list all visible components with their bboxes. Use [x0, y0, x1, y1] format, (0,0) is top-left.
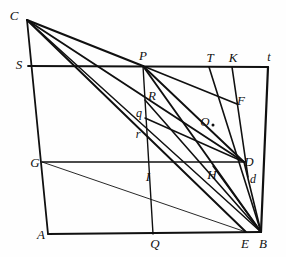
point-label-A: A [37, 228, 45, 241]
segment-C-A [27, 20, 48, 234]
figure-lines [0, 0, 286, 257]
point-label-r: r [136, 128, 141, 140]
point-label-t: t [267, 51, 270, 63]
point-label-P: P [139, 49, 147, 62]
point-label-E: E [241, 237, 249, 250]
point-label-I: I [146, 170, 150, 183]
segment-C-P [27, 20, 143, 66]
point-label-d: d [250, 173, 256, 185]
point-label-F: F [237, 94, 245, 107]
point-label-C: C [10, 9, 19, 22]
point-label-T: T [206, 51, 213, 64]
point-label-O: O [200, 115, 209, 128]
point-label-q: q [136, 107, 142, 119]
geometry-figure-canvas: CSPTKtRFqOrGDIHdAQEB [0, 0, 286, 257]
point-label-Q: Q [150, 237, 159, 250]
point-label-B: B [259, 237, 267, 250]
point-label-H: H [207, 168, 216, 181]
segment-t-B [261, 67, 268, 232]
point-dot-O [212, 124, 215, 127]
point-label-D: D [244, 155, 253, 168]
point-label-R: R [148, 89, 156, 102]
segment-A-B [48, 232, 261, 234]
point-label-G: G [30, 156, 39, 169]
point-label-S: S [16, 58, 23, 71]
point-label-K: K [229, 51, 238, 64]
